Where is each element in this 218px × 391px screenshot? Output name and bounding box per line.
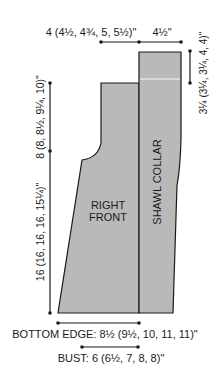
bust-label: BUST: 6 (6½, 7, 8, 8)" <box>58 352 165 364</box>
top-dimension <box>99 40 183 44</box>
shawl-collar-label: SHAWL COLLAR <box>151 139 163 224</box>
right-front-piece <box>58 83 139 313</box>
right-front-label-line2: FRONT <box>89 211 127 223</box>
top-width-label: 4 (4½, 4¾, 5, 5½)" <box>46 26 137 38</box>
right-front-label-line1: RIGHT <box>91 199 126 211</box>
bottom-edge-dimension <box>56 321 141 325</box>
collar-height-label: 3¼ (3¼, 3¼, 4, 4)" <box>198 31 209 114</box>
left-length-dimension <box>48 81 52 315</box>
armhole-depth-label: 8 (8, 8½, 9¼, 10)" <box>34 75 46 159</box>
bust-dimension <box>80 345 140 349</box>
collar-height-dimension <box>188 49 192 85</box>
bottom-edge-label: BOTTOM EDGE: 8½ (9½, 10, 11, 11)" <box>12 328 198 340</box>
schematic-diagram: 4 (4½, 4¾, 5, 5½)" 4½" 3¼ (3¼, 3¼, 4, 4)… <box>0 0 218 391</box>
collar-width-label: 4½" <box>152 26 171 38</box>
length-to-armhole-label: 16 (16, 16, 16, 15¼)" <box>34 183 46 282</box>
